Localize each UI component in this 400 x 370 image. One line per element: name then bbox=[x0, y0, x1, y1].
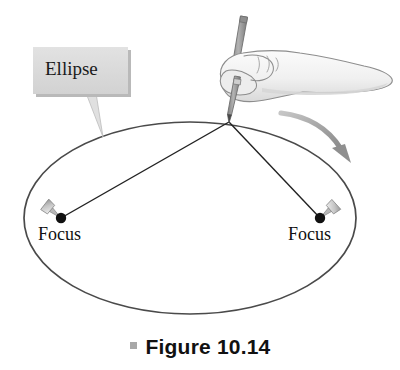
focus-left-marker bbox=[40, 199, 66, 223]
focus-left-dot bbox=[56, 213, 66, 223]
focus-left-label: Focus bbox=[38, 224, 81, 245]
callout-label: Ellipse bbox=[45, 58, 98, 80]
pencil-cap bbox=[240, 16, 248, 23]
ellipse-curve-group bbox=[24, 122, 356, 314]
square-bullet-icon bbox=[130, 342, 137, 349]
string-to-right-focus bbox=[229, 122, 320, 218]
figure-caption-text: Figure 10.14 bbox=[146, 335, 271, 358]
focus-right-label: Focus bbox=[288, 224, 331, 245]
pencil-ferrule bbox=[233, 79, 241, 86]
focus-right-marker bbox=[315, 199, 341, 223]
motion-arrow-head bbox=[332, 144, 351, 163]
string-to-left-focus bbox=[61, 122, 229, 218]
focus-right-dot bbox=[315, 213, 325, 223]
hand-and-pencil-group bbox=[220, 16, 392, 123]
callout-leader-line bbox=[86, 93, 103, 137]
ellipse-curve bbox=[24, 122, 356, 314]
motion-arrow-shaft bbox=[281, 113, 341, 149]
string-group bbox=[61, 122, 320, 218]
ellipse-construction-illustration bbox=[0, 0, 400, 370]
figure-container: Ellipse Focus Focus Figure 10.14 bbox=[0, 0, 400, 370]
figure-caption: Figure 10.14 bbox=[0, 334, 400, 359]
